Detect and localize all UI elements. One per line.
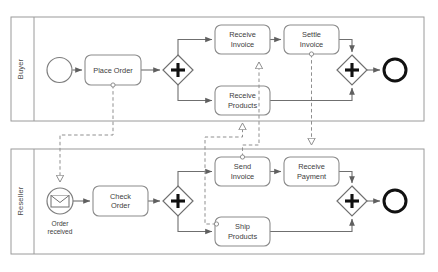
message-flow-products-source-dot [214, 222, 218, 226]
start-event-circle [47, 58, 72, 83]
task-send-invoice[interactable]: Send Invoice [215, 157, 270, 186]
task-receive-payment-label-line2: Payment [297, 172, 326, 181]
pool-reseller-label: Reseller [16, 186, 25, 215]
message-flow-order-source-dot [111, 83, 115, 87]
envelope-icon [51, 196, 69, 208]
task-ship-products-label-line1: Ship [235, 222, 250, 231]
task-receive-products-label-line2: Products [228, 101, 257, 110]
message-flow-payment-source-dot [309, 52, 313, 56]
end-event-circle [384, 59, 406, 81]
task-place-order-label: Place Order [93, 66, 133, 75]
task-check-order-label-line2: Order [111, 201, 130, 210]
end-event-circle [384, 190, 406, 212]
task-settle-invoice-label-line2: Invoice [300, 40, 323, 49]
pool-buyer-label: Buyer [16, 58, 25, 79]
task-receive-products[interactable]: Receive Products [215, 86, 270, 115]
task-ship-products-label-line2: Products [228, 232, 257, 241]
task-receive-products-label-line1: Receive [229, 91, 256, 100]
task-place-order[interactable]: Place Order [85, 55, 141, 85]
end-event-buyer[interactable] [384, 59, 406, 81]
message-start-event-label-line2: received [48, 228, 73, 235]
task-settle-invoice[interactable]: Settle Invoice [284, 25, 339, 54]
task-receive-invoice-label-line2: Invoice [231, 40, 254, 49]
message-start-event-label-line1: Order [52, 220, 70, 227]
task-send-invoice-label-line1: Send [234, 162, 251, 171]
bpmn-diagram-canvas: Buyer Place Order Receive Invoice Settle… [0, 0, 438, 272]
task-check-order-label-line1: Check [110, 192, 131, 201]
task-ship-products[interactable]: Ship Products [215, 217, 270, 246]
bpmn-svg-root: Buyer Place Order Receive Invoice Settle… [0, 0, 438, 272]
task-check-order[interactable]: Check Order [93, 186, 148, 216]
task-settle-invoice-label-line1: Settle [302, 30, 321, 39]
task-receive-invoice[interactable]: Receive Invoice [215, 25, 270, 54]
end-event-reseller[interactable] [384, 190, 406, 212]
task-receive-payment[interactable]: Receive Payment [284, 157, 339, 186]
message-flow-invoice-source-dot [240, 155, 244, 159]
start-event-buyer[interactable] [47, 58, 72, 83]
task-receive-invoice-label-line1: Receive [229, 30, 256, 39]
task-receive-payment-label-line1: Receive [298, 162, 325, 171]
task-send-invoice-label-line2: Invoice [231, 172, 254, 181]
